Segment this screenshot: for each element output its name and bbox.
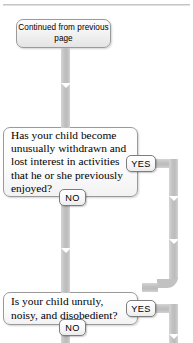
node-question-2-text: Is your child unruly, noisy, and disobed… [11,295,131,321]
node-continued-label: Continued from previous page [17,23,110,44]
connector-question-1-yes-vertical [169,159,178,279]
node-question-1-text: Has your child become unusually withdraw… [11,129,131,194]
flowchart-page: Continued from previous page Has your ch… [0,0,193,343]
badge-question-2-no[interactable]: NO [59,319,86,336]
arrow-chevron-icon [61,83,71,88]
node-continued-from-previous-page[interactable]: Continued from previous page [16,19,111,48]
arrow-chevron-icon [61,248,71,253]
arrow-chevron-icon [169,334,179,339]
connector-entry-to-question-1 [61,48,70,128]
connector-question-1-yes-curve [157,270,178,288]
page-top-rule [3,4,190,6]
badge-question-1-no[interactable]: NO [59,189,86,206]
connector-question-1-no-to-question-2 [61,197,70,293]
node-question-1[interactable]: Has your child become unusually withdraw… [3,127,138,197]
arrow-chevron-icon [169,196,179,201]
badge-question-1-yes[interactable]: YES [126,155,156,172]
connector-question-1-yes-inbound-stub [142,283,158,292]
arrow-chevron-icon [169,239,179,244]
badge-question-2-yes[interactable]: YES [126,300,156,317]
